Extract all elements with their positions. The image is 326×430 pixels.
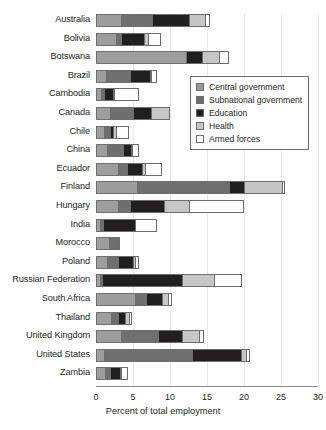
x-tick-label: 0 — [93, 392, 98, 402]
y-axis-label: Bolivia — [64, 32, 90, 45]
x-tick-label: 30 — [313, 392, 323, 402]
bar-segment — [102, 275, 182, 286]
bar-segment — [97, 201, 118, 212]
bar-segment — [97, 331, 121, 342]
bar-segment — [282, 182, 284, 193]
x-tick-label: 5 — [130, 392, 135, 402]
bar-segment — [219, 52, 228, 63]
bar-segment — [97, 257, 107, 268]
bar-segment — [118, 201, 130, 212]
y-axis-label: Ecuador — [56, 162, 90, 175]
stacked-bar — [96, 107, 170, 120]
bar-segment — [229, 182, 243, 193]
bar-row: Thailand — [96, 312, 318, 325]
bar-segment — [182, 275, 214, 286]
y-axis-label: Cambodia — [49, 87, 90, 100]
bar-segment — [107, 145, 123, 156]
bar-segment — [148, 34, 160, 45]
x-tick-label: 10 — [165, 392, 175, 402]
bar-segment — [97, 127, 104, 138]
x-axis-title: Percent of total employment — [0, 406, 326, 416]
bar-segment — [97, 182, 137, 193]
bar-segment — [151, 71, 156, 82]
bar-segment — [118, 238, 119, 249]
bar-segment — [104, 350, 193, 361]
stacked-bar — [96, 312, 132, 325]
stacked-bar — [96, 330, 204, 343]
bar-segment — [116, 127, 128, 138]
bar-segment — [106, 71, 130, 82]
y-axis-label: India — [71, 218, 90, 231]
legend-item: Subnational government — [196, 94, 302, 106]
bar-segment — [151, 108, 169, 119]
bar-segment — [133, 108, 151, 119]
stacked-bar-chart: AustraliaBoliviaBotswanaBrazilCambodiaCa… — [0, 0, 326, 430]
stacked-bar — [96, 219, 157, 232]
bar-segment — [97, 15, 121, 26]
bar-row: Australia — [96, 14, 318, 27]
bar-segment — [137, 182, 230, 193]
x-tick-label: 15 — [202, 392, 212, 402]
bar-segment — [182, 331, 199, 342]
bar-segment — [135, 220, 156, 231]
stacked-bar — [96, 126, 129, 139]
bar-row: Finland — [96, 181, 318, 194]
bar-row: United States — [96, 349, 318, 362]
bar-segment — [192, 350, 240, 361]
bar-segment — [199, 331, 203, 342]
stacked-bar — [96, 237, 120, 250]
y-axis-label: Thailand — [56, 311, 90, 324]
y-axis-label: United Kingdom — [26, 329, 90, 342]
bar-segment — [130, 71, 149, 82]
bar-segment — [135, 257, 138, 268]
stacked-bar — [96, 349, 250, 362]
bar-row: United Kingdom — [96, 330, 318, 343]
bar-segment — [110, 108, 133, 119]
legend-item: Central government — [196, 81, 302, 93]
stacked-bar — [96, 181, 285, 194]
bar-segment — [205, 15, 209, 26]
stacked-bar — [96, 163, 162, 176]
x-axis-ticks: 051015202530 — [96, 392, 318, 404]
stacked-bar — [96, 200, 244, 213]
y-axis-label: Morocco — [55, 236, 90, 249]
y-axis-label: Zambia — [60, 366, 90, 379]
bar-segment — [118, 313, 125, 324]
bar-segment — [127, 164, 142, 175]
bar-segment — [202, 52, 219, 63]
bar-segment — [158, 331, 182, 342]
bar-segment — [97, 34, 116, 45]
bar-segment — [97, 52, 186, 63]
stacked-bar — [96, 88, 139, 101]
y-axis-label: Poland — [62, 255, 90, 268]
stacked-bar — [96, 367, 128, 380]
bar-segment — [103, 220, 136, 231]
bar-segment — [97, 164, 118, 175]
y-axis-label: Canada — [58, 106, 90, 119]
legend-item: Education — [196, 107, 302, 119]
legend-label: Education — [209, 107, 247, 119]
legend-label: Armed forces — [209, 133, 260, 145]
bar-segment — [97, 294, 135, 305]
bar-segment — [111, 313, 118, 324]
bar-segment — [97, 368, 105, 379]
bar-segment — [114, 89, 138, 100]
bar-row: Ecuador — [96, 163, 318, 176]
legend-label: Health — [209, 120, 234, 132]
y-axis-label: Australia — [55, 13, 90, 26]
plot-area: AustraliaBoliviaBotswanaBrazilCambodiaCa… — [96, 13, 318, 387]
y-axis-label: Finland — [61, 180, 90, 193]
bar-segment — [130, 201, 164, 212]
y-axis-label: United States — [36, 348, 90, 361]
y-axis-label: China — [66, 143, 90, 156]
y-axis-label: Russian Federation — [12, 273, 90, 286]
bar-row: Zambia — [96, 367, 318, 380]
legend-swatch-icon — [196, 109, 204, 117]
bar-segment — [97, 350, 104, 361]
legend-swatch-icon — [196, 83, 204, 91]
bar-segment — [146, 294, 162, 305]
bar-row: India — [96, 219, 318, 232]
legend-swatch-icon — [196, 135, 204, 143]
y-axis-label: South Africa — [42, 292, 90, 305]
bar-segment — [214, 275, 241, 286]
